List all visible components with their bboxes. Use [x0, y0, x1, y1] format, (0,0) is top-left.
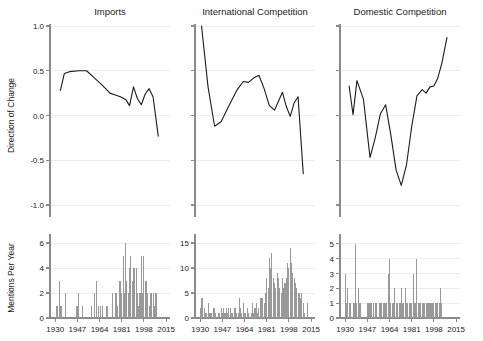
bar	[219, 313, 220, 318]
bar	[150, 293, 151, 318]
y-tick-label: 2	[40, 289, 45, 298]
bar	[271, 253, 272, 318]
bar	[288, 268, 289, 318]
bar	[266, 278, 267, 318]
bar	[420, 303, 421, 318]
y-tick-label: 5	[330, 240, 335, 249]
bar	[78, 293, 79, 318]
x-tick-label: 2015	[157, 325, 175, 334]
bar	[413, 274, 414, 318]
bar	[414, 303, 415, 318]
bar	[359, 303, 360, 318]
y-tick-label: 0	[185, 314, 190, 323]
bar	[98, 306, 99, 319]
x-tick-label: 1998	[135, 325, 153, 334]
bar	[204, 308, 205, 318]
bar	[291, 263, 292, 318]
bar	[423, 303, 424, 318]
bar	[213, 308, 214, 318]
bar	[232, 313, 233, 318]
y-tick-label: 4	[40, 264, 45, 273]
bar	[405, 288, 406, 318]
bar	[154, 306, 155, 319]
bar	[102, 306, 103, 319]
bar	[218, 313, 219, 318]
x-tick-label: 1930	[46, 325, 64, 334]
y-tick-label: 2	[330, 284, 335, 293]
bar	[254, 308, 255, 318]
bar	[368, 303, 369, 318]
bar	[57, 306, 58, 319]
bar	[117, 306, 118, 319]
bar	[410, 303, 411, 318]
bar	[402, 303, 403, 318]
bar	[134, 268, 135, 318]
bar	[132, 281, 133, 319]
bar	[231, 313, 232, 318]
y-tick-label: 0	[40, 314, 45, 323]
bar	[296, 288, 297, 318]
bottom-panel-2: 012345193019471964198119982015	[330, 234, 466, 334]
x-tick-label: 1947	[358, 325, 376, 334]
bar	[286, 278, 287, 318]
bar	[123, 256, 124, 319]
bar	[303, 303, 304, 318]
x-tick-label: 2015	[302, 325, 320, 334]
bar	[304, 313, 305, 318]
y-tick-label: 6	[40, 239, 45, 248]
bar	[419, 303, 420, 318]
bar	[139, 293, 140, 318]
bar	[360, 303, 361, 318]
bar	[407, 303, 408, 318]
bar	[125, 243, 126, 318]
x-tick-label: 1930	[336, 325, 354, 334]
bar	[243, 303, 244, 318]
bar	[151, 293, 152, 318]
bar	[386, 303, 387, 318]
bar	[208, 303, 209, 318]
bar	[353, 303, 354, 318]
bar	[440, 288, 441, 318]
bar	[222, 313, 223, 318]
bar	[129, 268, 130, 318]
bar	[121, 293, 122, 318]
bar	[226, 308, 227, 318]
bar	[284, 283, 285, 318]
y-tick-label: 15	[180, 239, 189, 248]
bar	[205, 313, 206, 318]
bar	[294, 278, 295, 318]
bar	[256, 303, 257, 318]
bar	[399, 303, 400, 318]
bar	[403, 303, 404, 318]
bar	[56, 306, 57, 319]
bar	[432, 303, 433, 318]
bar	[415, 303, 416, 318]
series-line-1	[202, 26, 304, 174]
bar	[200, 308, 201, 318]
bar	[274, 283, 275, 318]
bar	[295, 283, 296, 318]
bar	[155, 293, 156, 318]
bar	[299, 293, 300, 318]
bar	[277, 273, 278, 318]
bar	[281, 293, 282, 318]
bar	[202, 298, 203, 318]
bar	[244, 313, 245, 318]
bar	[245, 313, 246, 318]
bar	[221, 308, 222, 318]
bar	[429, 303, 430, 318]
bar	[136, 268, 137, 318]
bar	[268, 288, 269, 318]
bar	[236, 313, 237, 318]
top-panel-0: 1.00.50.0-0.5-1.0Imports	[30, 6, 170, 217]
bar	[270, 268, 271, 318]
bar	[355, 244, 356, 318]
series-line-0	[60, 71, 158, 136]
bar	[367, 303, 368, 318]
x-tick-label: 1947	[68, 325, 86, 334]
bar	[147, 293, 148, 318]
bar	[379, 303, 380, 318]
y-tick-label: 5	[185, 289, 190, 298]
bar	[375, 303, 376, 318]
bar	[401, 288, 402, 318]
